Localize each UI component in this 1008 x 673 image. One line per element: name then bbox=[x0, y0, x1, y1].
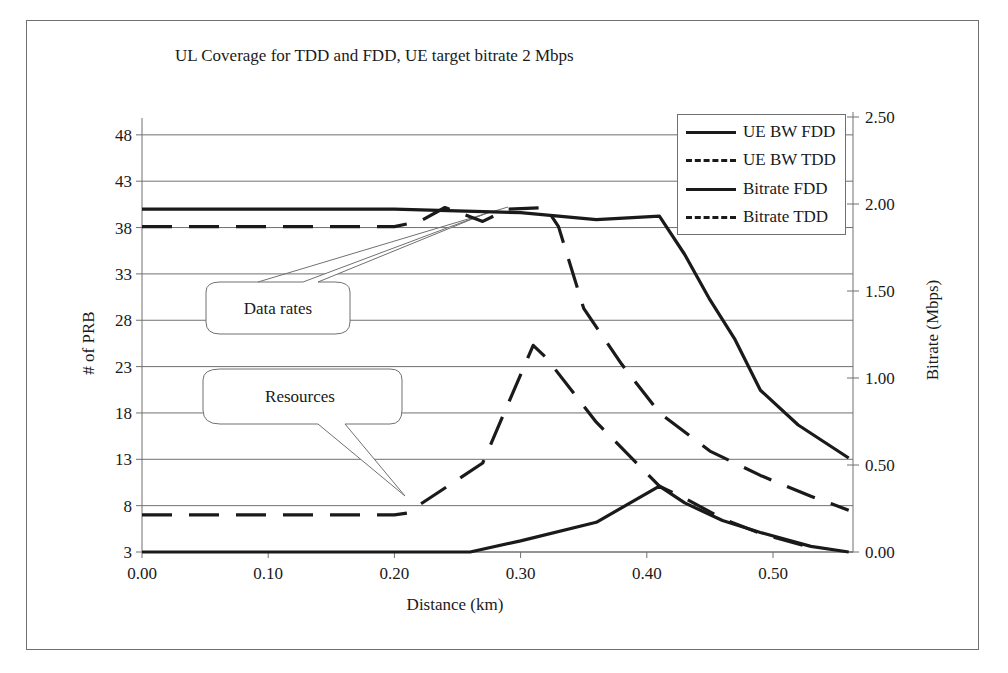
callout-resources-label: Resources bbox=[265, 387, 335, 406]
x-tick-label: 0.40 bbox=[632, 564, 662, 583]
legend-swatch-solid bbox=[686, 131, 736, 134]
legend-item-ue-bw-fdd: UE BW FDD bbox=[686, 118, 835, 146]
y-tick-label: 8 bbox=[124, 497, 133, 516]
y2-tick-label: 1.00 bbox=[865, 369, 895, 388]
legend-swatch-dashed bbox=[686, 159, 736, 162]
x-axis-label: Distance (km) bbox=[407, 595, 504, 614]
series-bitrate-tdd bbox=[142, 208, 849, 511]
x-tick-label: 0.10 bbox=[253, 564, 283, 583]
callout-data-rates-label: Data rates bbox=[244, 299, 312, 318]
y2-axis-label: Bitrate (Mbps) bbox=[923, 280, 942, 381]
y2-tick-label: 2.00 bbox=[865, 195, 895, 214]
y-tick-label: 18 bbox=[115, 404, 132, 423]
legend-label: UE BW TDD bbox=[743, 150, 836, 170]
legend-swatch-dashed bbox=[686, 216, 736, 219]
callouts: Data rates Resources bbox=[203, 207, 508, 496]
y-tick-label: 48 bbox=[115, 126, 132, 145]
y-tick-label: 23 bbox=[115, 358, 132, 377]
y-tick-label: 33 bbox=[115, 265, 132, 284]
y2-tick-label: 2.50 bbox=[865, 108, 895, 127]
legend-label: UE BW FDD bbox=[743, 122, 835, 142]
x-tick-label: 0.00 bbox=[127, 564, 157, 583]
x-tick-label: 0.50 bbox=[758, 564, 788, 583]
legend-item-ue-bw-tdd: UE BW TDD bbox=[686, 146, 836, 174]
y2-tick-label: 0.00 bbox=[865, 543, 895, 562]
legend-item-bitrate-fdd: Bitrate FDD bbox=[686, 175, 828, 203]
x-tick-label: 0.30 bbox=[506, 564, 536, 583]
chart-plot: 3813182328333843480.000.501.001.502.002.… bbox=[0, 0, 1008, 673]
y-tick-label: 43 bbox=[115, 172, 132, 191]
y-tick-label: 28 bbox=[115, 311, 132, 330]
y-tick-label: 38 bbox=[115, 219, 132, 238]
legend-swatch-solid bbox=[686, 188, 736, 191]
legend-item-bitrate-tdd: Bitrate TDD bbox=[686, 203, 828, 231]
chart-legend: UE BW FDD UE BW TDD Bitrate FDD Bitrate … bbox=[677, 114, 846, 235]
y-axis-label: # of PRB bbox=[79, 311, 98, 374]
y2-tick-label: 0.50 bbox=[865, 456, 895, 475]
x-tick-label: 0.20 bbox=[380, 564, 410, 583]
y2-tick-label: 1.50 bbox=[865, 282, 895, 301]
series-ue-bw-fdd bbox=[142, 486, 849, 552]
legend-label: Bitrate TDD bbox=[743, 207, 828, 227]
y-tick-label: 13 bbox=[115, 450, 132, 469]
legend-label: Bitrate FDD bbox=[743, 179, 828, 199]
y-tick-label: 3 bbox=[124, 543, 133, 562]
